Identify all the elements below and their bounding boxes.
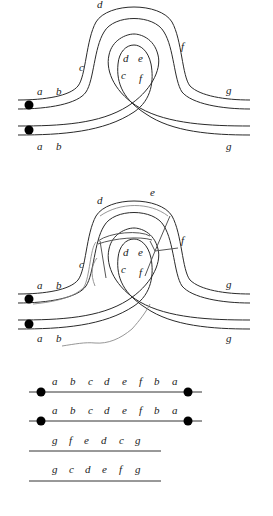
label: b [56,140,62,152]
label: d [123,246,129,258]
label: e [150,186,155,198]
seq-letter: d [101,434,107,446]
label: d [97,0,103,10]
seq-letter: e [84,434,89,446]
figure-1-bands [18,7,250,135]
seq-letter: g [52,434,58,446]
seq-letter: g [135,434,141,446]
seq-letter: c [69,463,74,475]
pencil-arc [100,206,168,217]
seq-letter: a [52,375,58,387]
seq-letter: f [139,375,144,387]
sequence-row-4: g c d e f g [29,463,161,481]
seq-letter: b [70,375,76,387]
sequence-row-2: a b c d e f b a [29,404,202,426]
label: g [226,278,232,290]
label: d [123,52,129,64]
endpoint-dot [25,126,34,135]
label: e [138,246,143,258]
label: a [37,85,43,97]
seq-letter: d [85,463,91,475]
label: a [37,332,43,344]
label: d [97,194,103,206]
label: b [56,332,62,344]
seq-letter: b [154,375,160,387]
label: g [226,140,232,152]
endpoint-dot [25,101,34,110]
seq-letter: g [135,463,141,475]
pencil-line [98,233,150,241]
label: g [226,84,232,96]
sequence-row-1: a b c d e f b a [29,375,202,397]
endpoint-dot [37,388,46,397]
seq-letter: d [104,404,110,416]
seq-letter: f [119,463,124,475]
seq-letter: f [69,434,74,446]
endpoint-dot [184,388,193,397]
sequence-row-3: g f e d c g [29,434,161,451]
label: a [37,140,43,152]
seq-letter: a [172,375,178,387]
endpoint-dot [25,295,34,304]
seq-letter: e [102,463,107,475]
label: b [56,85,62,97]
figure-2: a b a b c d e f d e c f g g [18,186,250,346]
label: f [139,266,144,278]
seq-letter: b [70,404,76,416]
seq-letter: c [119,434,124,446]
label: e [138,52,143,64]
figure-1: a b a b c d f d e c f g g [18,0,250,152]
seq-letter: b [154,404,160,416]
seq-letter: a [52,404,58,416]
diagram-canvas: a b a b c d f d e c f g g a b a b c d e [0,0,273,516]
label: c [121,263,126,275]
endpoint-dot [25,320,34,329]
label: c [121,69,126,81]
seq-letter: f [139,404,144,416]
endpoint-dot [184,417,193,426]
label: b [56,279,62,291]
seq-letter: e [122,404,127,416]
seq-letter: a [172,404,178,416]
endpoint-dot [37,417,46,426]
label: g [226,332,232,344]
seq-letter: c [88,375,93,387]
label: f [181,40,186,52]
seq-letter: c [88,404,93,416]
label: a [37,279,43,291]
seq-letter: d [104,375,110,387]
label: f [181,234,186,246]
label: f [139,72,144,84]
label: c [79,61,84,73]
figure-2-bands [18,201,250,329]
seq-letter: e [122,375,127,387]
label: c [79,258,84,270]
seq-letter: g [52,463,58,475]
pencil-line [100,241,106,278]
